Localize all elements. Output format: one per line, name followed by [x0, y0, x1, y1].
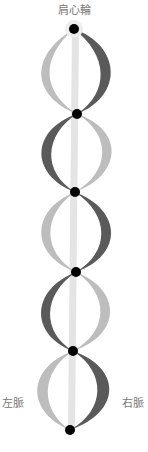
node-6	[65, 425, 75, 435]
node-4	[71, 267, 81, 277]
central-channel	[68, 29, 79, 430]
channel-diagram	[0, 0, 148, 452]
node-3	[70, 187, 80, 197]
node-5	[68, 346, 78, 356]
node-2	[72, 109, 82, 119]
